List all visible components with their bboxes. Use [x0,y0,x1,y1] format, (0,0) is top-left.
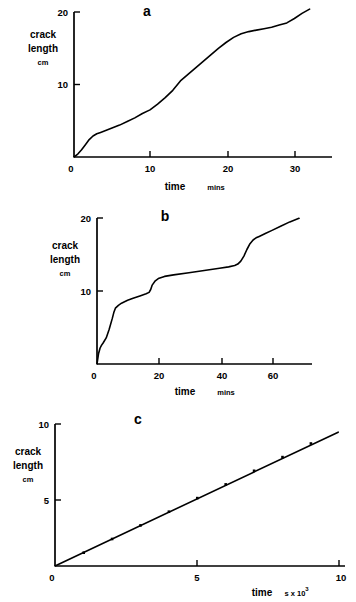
data-point-marker [82,551,85,554]
y-axis-label-c-line1: crack [15,446,42,457]
x-axis-unit-a: mins [207,183,225,192]
y-axis-label-b-line1: crack [52,240,79,251]
y-axis-label-a-line2: length [28,43,58,54]
y-tick-label-b-0: 0 [91,370,96,381]
x-tick-label-c-10: 10 [336,572,347,583]
y-tick-label-a-0: 0 [68,163,73,174]
y-axis-unit-b: cm [60,269,71,278]
chart-panel-b: 20 10 0 20 40 60 crack length cm time mi… [0,196,356,396]
panel-b-axes [97,218,312,364]
x-tick-label-b-40: 40 [217,370,228,381]
panel-a-svg: 20 10 0 10 20 30 crack length cm time mi… [0,0,356,196]
y-axis-unit-a: cm [38,58,49,67]
data-point-marker [253,470,256,473]
y-tick-label-a-10: 10 [57,79,68,90]
y-tick-label-b-20: 20 [80,213,91,224]
y-tick-label-c-10: 10 [38,419,49,430]
panel-b-svg: 20 10 0 20 40 60 crack length cm time mi… [0,196,356,396]
x-axis-label-c: time [252,587,273,598]
data-point-marker [168,510,171,513]
y-tick-label-c-5: 5 [44,495,50,506]
data-point-marker [139,524,142,527]
x-axis-unit-exponent-c: 3 [305,586,309,592]
x-tick-label-a-10: 10 [145,163,156,174]
x-axis-unit-b: mins [217,388,235,396]
panel-letter-a: a [143,3,151,19]
data-point-marker [111,538,114,541]
y-tick-label-a-20: 20 [57,7,68,18]
x-tick-label-b-20: 20 [154,370,165,381]
x-axis-label-a: time [165,181,186,192]
chart-panel-c: 10 5 0 5 10 crack length cm time s x 10 … [0,396,356,602]
chart-panel-a: 20 10 0 10 20 30 crack length cm time mi… [0,0,356,196]
x-tick-label-a-30: 30 [290,163,301,174]
y-axis-label-b-line2: length [50,254,80,265]
curve-b [97,218,299,364]
y-tick-label-c-0: 0 [49,572,54,583]
panel-letter-b: b [161,208,170,224]
y-axis-label-a-line1: crack [30,29,57,40]
x-tick-label-c-5: 5 [194,572,200,583]
panel-c-svg: 10 5 0 5 10 crack length cm time s x 10 … [0,396,356,602]
y-tick-label-b-10: 10 [80,286,91,297]
x-axis-unit-c: s x 10 [285,589,306,598]
x-tick-label-a-20: 20 [223,163,234,174]
y-axis-unit-c: cm [23,475,34,484]
x-tick-label-b-60: 60 [268,370,279,381]
data-point-marker [224,483,227,486]
panel-letter-c: c [134,411,142,427]
curve-a [74,9,310,157]
y-axis-label-c-line2: length [13,460,43,471]
panel-a-axes [74,12,332,157]
data-point-marker [196,497,199,500]
data-point-marker [310,442,313,445]
data-point-marker [281,456,284,459]
x-axis-label-b: time [175,386,196,396]
